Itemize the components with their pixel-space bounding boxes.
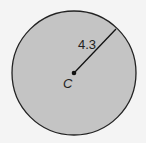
center-label: C xyxy=(63,76,73,91)
center-point xyxy=(72,71,77,76)
radius-label: 4.3 xyxy=(78,37,96,52)
circle-diagram: 4.3 C xyxy=(0,0,146,143)
